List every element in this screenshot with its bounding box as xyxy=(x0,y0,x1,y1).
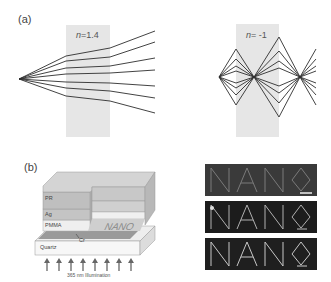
nano-micrographs xyxy=(0,0,331,282)
